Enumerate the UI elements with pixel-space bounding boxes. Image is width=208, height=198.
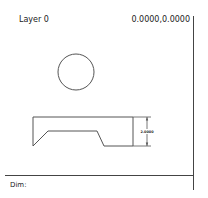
vertical-dimension[interactable]: 2.0000: [133, 117, 154, 146]
drawing-canvas[interactable]: 2.0000: [0, 0, 208, 198]
part-outline-entity[interactable]: [33, 117, 133, 146]
dimension-arrow-top-icon: [146, 117, 148, 121]
dim-prompt-label: Dim:: [10, 181, 27, 190]
circle-entity[interactable]: [58, 54, 94, 90]
dimension-arrow-bottom-icon: [146, 143, 148, 147]
dimension-value: 2.0000: [140, 130, 154, 134]
